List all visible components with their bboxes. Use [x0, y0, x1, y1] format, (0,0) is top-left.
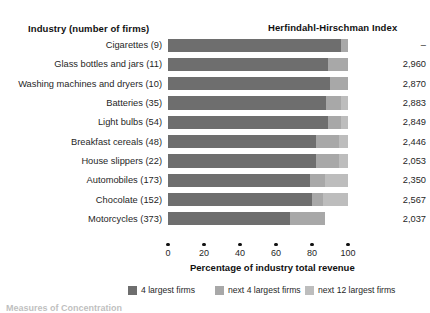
bar-segment-s3 [325, 174, 348, 187]
hhi-value: 2,883 [368, 98, 426, 108]
stacked-bar [168, 174, 348, 187]
legend-swatch [128, 286, 137, 295]
axis-tick-dot [310, 243, 313, 246]
stacked-bar [168, 135, 348, 148]
axis-tick-dot [238, 243, 241, 246]
chart-row: Glass bottles and jars (11)2,960 [0, 56, 430, 75]
axis-tick-dot [202, 243, 205, 246]
chart-row: Motorcycles (373)2,037 [0, 211, 430, 230]
row-label: Breakfast cereals (48) [0, 137, 162, 147]
bar-segment-s3 [341, 116, 348, 129]
bar-segment-s2 [316, 154, 339, 167]
hhi-value: – [368, 40, 426, 50]
footnote-text: Measures of Concentration [6, 303, 122, 313]
column-header-industry: Industry (number of firms) [28, 23, 149, 34]
bar-segment-s2 [312, 193, 323, 206]
stacked-bar [168, 58, 348, 71]
bar-segment-s2 [310, 174, 324, 187]
row-label: Chocolate (152) [0, 195, 162, 205]
legend-item: next 12 largest firms [305, 285, 395, 295]
legend-label: 4 largest firms [141, 285, 195, 295]
bar-segment-s1 [168, 96, 326, 109]
bar-segment-s1 [168, 58, 328, 71]
bar-segment-s3 [341, 96, 348, 109]
legend-swatch [305, 286, 314, 295]
chart-row: Automobiles (173)2,350 [0, 172, 430, 191]
row-label: Batteries (35) [0, 98, 162, 108]
stacked-bar [168, 116, 348, 129]
bar-segment-s2 [316, 135, 339, 148]
stacked-bar [168, 77, 348, 90]
bar-segment-s1 [168, 174, 310, 187]
axis-tick-label: 40 [235, 248, 245, 258]
chart-row: Washing machines and dryers (10)2,870 [0, 76, 430, 95]
bar-segment-s3 [339, 154, 348, 167]
hhi-value: 2,849 [368, 117, 426, 127]
chart-row: Breakfast cereals (48)2,446 [0, 133, 430, 152]
column-header-hhi: Herfindahl-Hirschman Index [268, 22, 397, 33]
axis-tick-label: 80 [307, 248, 317, 258]
hhi-value: 2,870 [368, 79, 426, 89]
bar-segment-s2 [326, 96, 340, 109]
row-label: Glass bottles and jars (11) [0, 59, 162, 69]
legend-label: next 12 largest firms [318, 285, 395, 295]
legend-item: next 4 largest firms [215, 285, 301, 295]
row-label: Washing machines and dryers (10) [0, 79, 162, 89]
bar-segment-s1 [168, 77, 330, 90]
axis-tick-label: 20 [199, 248, 209, 258]
bar-segment-s1 [168, 39, 341, 52]
chart-row: Cigarettes (9)– [0, 37, 430, 56]
legend-swatch [215, 286, 224, 295]
row-label: Automobiles (173) [0, 175, 162, 185]
bar-segment-s2 [328, 116, 341, 129]
hhi-value: 2,960 [368, 59, 426, 69]
hhi-value: 2,053 [368, 156, 426, 166]
chart-legend: 4 largest firmsnext 4 largest firmsnext … [0, 285, 430, 299]
stacked-bar [168, 154, 348, 167]
x-axis-title: Percentage of industry total revenue [190, 262, 355, 273]
bar-segment-s2 [330, 77, 348, 90]
row-label: House slippers (22) [0, 156, 162, 166]
bar-segment-s2 [341, 39, 348, 52]
stacked-bar [168, 96, 348, 109]
hhi-value: 2,446 [368, 137, 426, 147]
axis-tick-dot [274, 243, 277, 246]
bar-segment-s2 [328, 58, 348, 71]
chart-row: Batteries (35)2,883 [0, 95, 430, 114]
chart-row: Light bulbs (54)2,849 [0, 114, 430, 133]
bar-segment-s2 [290, 212, 324, 225]
bar-segment-s3 [323, 193, 348, 206]
chart-rows: Cigarettes (9)–Glass bottles and jars (1… [0, 37, 430, 230]
stacked-bar [168, 39, 348, 52]
row-label: Cigarettes (9) [0, 40, 162, 50]
hhi-value: 2,037 [368, 214, 426, 224]
axis-tick-label: 60 [271, 248, 281, 258]
bar-segment-s1 [168, 135, 316, 148]
bar-segment-s3 [339, 135, 348, 148]
stacked-bar [168, 193, 348, 206]
stacked-bar [168, 212, 325, 225]
legend-item: 4 largest firms [128, 285, 195, 295]
axis-tick-label: 100 [340, 248, 355, 258]
legend-label: next 4 largest firms [228, 285, 301, 295]
bar-segment-s1 [168, 193, 312, 206]
bar-segment-s1 [168, 116, 328, 129]
bar-segment-s1 [168, 154, 316, 167]
axis-tick-dot [166, 243, 169, 246]
axis-tick-dot [346, 243, 349, 246]
chart-row: Chocolate (152)2,567 [0, 191, 430, 210]
row-label: Light bulbs (54) [0, 117, 162, 127]
hhi-value: 2,350 [368, 175, 426, 185]
row-label: Motorcycles (373) [0, 214, 162, 224]
chart-row: House slippers (22)2,053 [0, 153, 430, 172]
bar-segment-s1 [168, 212, 290, 225]
axis-tick-label: 0 [165, 248, 170, 258]
hhi-value: 2,567 [368, 195, 426, 205]
